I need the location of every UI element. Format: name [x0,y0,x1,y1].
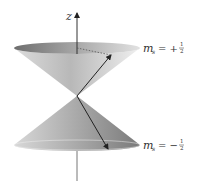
svg-text:1: 1 [180,138,184,144]
svg-text:= +: = + [158,43,178,54]
lower-cone [14,96,140,151]
svg-text:1: 1 [180,41,184,47]
svg-text:2: 2 [180,48,184,54]
svg-text:s: s [152,48,155,55]
label-spin-down: m s = − 1 2 [143,138,184,152]
svg-text:s: s [152,145,155,152]
z-axis-label: z [65,10,72,23]
svg-text:2: 2 [180,145,184,151]
spin-cone-diagram: z m s = + 1 2 m s = − 1 2 [0,0,198,191]
label-spin-up: m s = + 1 2 [143,41,184,55]
svg-text:= −: = − [158,140,178,151]
